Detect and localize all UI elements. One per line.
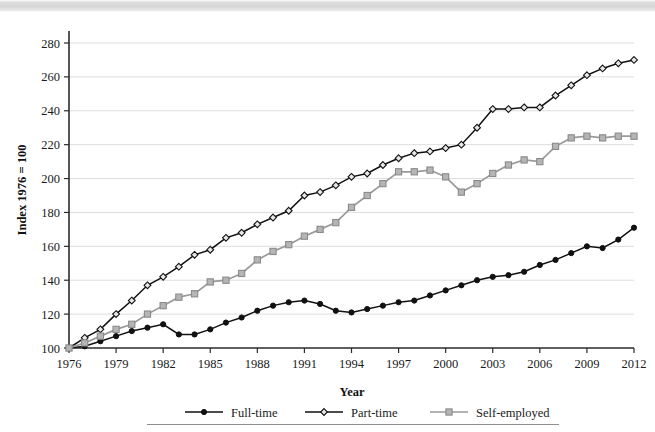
data-point <box>584 133 590 139</box>
y-tick-label: 220 <box>41 138 60 152</box>
y-tick-label: 100 <box>41 342 60 356</box>
data-point <box>254 257 260 263</box>
data-point <box>223 277 229 283</box>
line-chart: 100120140160180200220240260280 197619791… <box>0 12 655 432</box>
data-point <box>317 189 324 196</box>
data-point <box>427 167 433 173</box>
x-tick-label: 1985 <box>198 357 223 371</box>
x-tick-label: 1991 <box>292 357 317 371</box>
data-point <box>568 135 574 141</box>
y-axis-title: Index 1976 = 100 <box>15 145 29 236</box>
data-point <box>318 301 323 306</box>
data-point <box>584 244 589 249</box>
data-point <box>395 155 402 162</box>
series-line <box>69 136 634 348</box>
data-point <box>380 181 386 187</box>
data-point <box>380 303 385 308</box>
data-point <box>270 214 277 221</box>
data-point <box>332 182 339 189</box>
x-tick-label: 1982 <box>151 357 176 371</box>
data-point <box>395 169 401 175</box>
data-point <box>490 170 496 176</box>
data-point <box>129 328 134 333</box>
x-axis-ticks: 1976197919821985198819911994199720002003… <box>57 348 647 371</box>
data-point <box>348 173 355 180</box>
data-point <box>208 327 213 332</box>
data-point <box>553 257 558 262</box>
data-point <box>474 181 480 187</box>
x-tick-label: 2003 <box>480 357 505 371</box>
data-point <box>631 133 637 139</box>
data-point <box>191 291 197 297</box>
y-tick-label: 260 <box>41 70 60 84</box>
data-point <box>239 315 244 320</box>
legend-swatch-marker <box>201 409 206 414</box>
data-point <box>365 306 370 311</box>
data-point <box>505 162 511 168</box>
data-point <box>129 321 135 327</box>
x-tick-label: 2006 <box>527 357 552 371</box>
data-point <box>600 135 606 141</box>
data-point <box>286 300 291 305</box>
data-point <box>615 133 621 139</box>
data-point <box>66 345 72 351</box>
data-point <box>270 303 275 308</box>
data-point <box>411 150 418 157</box>
data-point <box>474 278 479 283</box>
data-point <box>443 174 449 180</box>
data-point <box>349 310 354 315</box>
x-tick-label: 2009 <box>574 357 599 371</box>
data-point <box>160 303 166 309</box>
x-axis-title: Year <box>340 385 365 399</box>
data-point <box>254 221 261 228</box>
x-tick-label: 2012 <box>622 357 647 371</box>
legend-label: Part-time <box>351 406 398 420</box>
series-self-employed <box>66 133 637 351</box>
footer-divider <box>147 424 559 425</box>
data-point <box>443 288 448 293</box>
data-point <box>348 204 354 210</box>
data-point <box>113 334 118 339</box>
data-point <box>459 283 464 288</box>
data-point <box>176 294 182 300</box>
data-point <box>521 157 527 163</box>
x-tick-label: 1976 <box>57 357 82 371</box>
data-point <box>364 192 370 198</box>
data-point <box>396 300 401 305</box>
x-tick-label: 2000 <box>433 357 458 371</box>
data-point <box>490 274 495 279</box>
y-tick-label: 180 <box>41 206 60 220</box>
x-tick-label: 1997 <box>386 357 411 371</box>
data-point <box>192 332 197 337</box>
series-full-time <box>66 225 636 351</box>
data-point <box>161 322 166 327</box>
legend-label: Full-time <box>231 406 278 420</box>
data-point <box>505 106 512 113</box>
data-point <box>145 325 150 330</box>
data-point <box>302 298 307 303</box>
data-point <box>411 169 417 175</box>
data-point <box>616 237 621 242</box>
y-tick-label: 120 <box>41 308 60 322</box>
data-point <box>569 251 574 256</box>
legend-item-full-time[interactable]: Full-time <box>185 406 278 420</box>
data-point <box>599 65 606 72</box>
data-point <box>615 60 622 67</box>
data-point <box>427 148 434 155</box>
data-point <box>301 233 307 239</box>
data-point <box>239 270 245 276</box>
data-point <box>238 229 245 236</box>
x-tick-label: 1994 <box>339 357 365 371</box>
legend-item-self-employed[interactable]: Self-employed <box>430 406 550 420</box>
data-point <box>82 340 88 346</box>
data-point <box>427 293 432 298</box>
data-point <box>521 104 528 111</box>
y-tick-label: 200 <box>41 172 60 186</box>
data-point <box>255 308 260 313</box>
data-point <box>364 170 371 177</box>
data-point <box>412 298 417 303</box>
legend-item-part-time[interactable]: Part-time <box>305 406 398 420</box>
legend-label: Self-employed <box>476 406 550 420</box>
legend-swatch-marker <box>446 409 452 415</box>
y-tick-label: 240 <box>41 104 60 118</box>
